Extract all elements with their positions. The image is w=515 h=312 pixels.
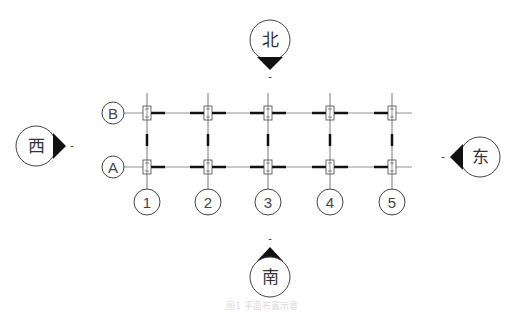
column-axis-label: 1 [143, 194, 151, 211]
column-axis-5: 5 [379, 189, 405, 215]
south-marker: 南 - [250, 233, 290, 297]
east-marker: 东 - [441, 137, 500, 177]
figure-caption: 图1 平面布置示意 [226, 300, 298, 311]
structural-grid [124, 93, 412, 189]
north-label: 北 [262, 30, 279, 50]
column-axis-1: 1 [134, 189, 160, 215]
column-axis-label: 3 [264, 194, 272, 211]
column-axis-label: 5 [388, 194, 396, 211]
north-marker: 北 - [250, 20, 290, 82]
west-arrow-icon [53, 133, 66, 159]
north-tick: - [268, 71, 272, 82]
column-axis-2: 2 [195, 189, 221, 215]
row-axis-label: A [108, 159, 118, 176]
west-tick: - [70, 140, 74, 151]
west-marker: 西 - [16, 126, 74, 166]
east-label: 东 [472, 147, 489, 167]
south-tick: - [268, 233, 272, 244]
north-arrow-icon [257, 57, 283, 70]
column-axis-3: 3 [255, 189, 281, 215]
east-arrow-icon [450, 144, 463, 170]
south-label: 南 [262, 267, 279, 287]
west-label: 西 [28, 136, 45, 156]
column-axis-4: 4 [317, 189, 343, 215]
row-axis-A: A [102, 156, 124, 178]
column-axis-label: 4 [326, 194, 334, 211]
column-axis-label: 2 [204, 194, 212, 211]
grid-plan-diagram: 北 - 南 - 西 - 东 - B A 1 2 [0, 0, 515, 312]
row-axis-B: B [102, 102, 124, 124]
east-tick: - [441, 151, 445, 162]
row-axis-label: B [108, 105, 118, 122]
